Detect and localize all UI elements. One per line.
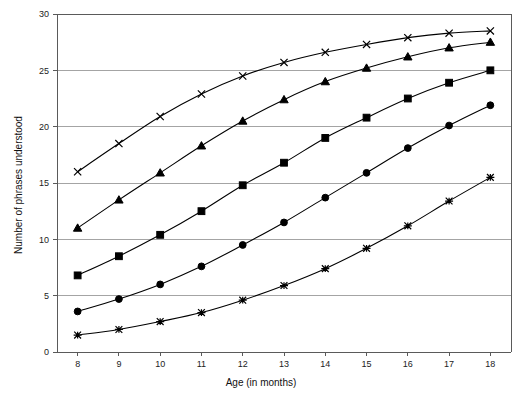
y-tick-label-5: 5 <box>44 291 49 301</box>
data-point-s3-x17 <box>446 79 453 86</box>
data-point-s4-x9 <box>116 296 123 303</box>
data-point-s3-x12 <box>239 182 246 189</box>
y-tick-label-25: 25 <box>39 66 49 76</box>
x-tick-label-17: 17 <box>444 359 454 369</box>
data-point-s5-x14 <box>321 265 329 272</box>
data-point-s3-x8 <box>74 272 81 279</box>
x-tick-label-13: 13 <box>279 359 289 369</box>
y-tick-label-10: 10 <box>39 235 49 245</box>
data-point-s5-x15 <box>363 245 371 252</box>
x-tick-label-14: 14 <box>320 359 330 369</box>
data-point-s3-x14 <box>322 135 329 142</box>
data-point-s3-x9 <box>116 253 123 260</box>
data-point-s3-x15 <box>363 114 370 121</box>
chart-canvas: 89101112131415161718 051015202530 Age (i… <box>0 0 523 399</box>
data-point-s4-x15 <box>363 169 370 176</box>
x-tick-label-15: 15 <box>362 359 372 369</box>
x-tick-label-12: 12 <box>238 359 248 369</box>
x-tick-label-8: 8 <box>75 359 80 369</box>
data-point-s3-x13 <box>281 159 288 166</box>
data-point-s4-x18 <box>487 102 494 109</box>
x-tick-label-18: 18 <box>485 359 495 369</box>
chart-background <box>0 0 523 399</box>
data-point-s5-x18 <box>486 174 494 181</box>
data-point-s4-x12 <box>239 242 246 249</box>
data-point-s5-x11 <box>197 309 205 316</box>
line-chart: 89101112131415161718 051015202530 Age (i… <box>0 0 523 399</box>
data-point-s4-x8 <box>74 308 81 315</box>
data-point-s5-x16 <box>404 222 412 229</box>
data-point-s3-x16 <box>404 95 411 102</box>
data-point-s5-x8 <box>74 332 82 339</box>
data-point-s5-x17 <box>445 198 453 205</box>
data-point-s5-x12 <box>239 297 247 304</box>
data-point-s5-x13 <box>280 282 288 289</box>
data-point-s4-x14 <box>322 194 329 201</box>
data-point-s3-x11 <box>198 208 205 215</box>
x-tick-label-9: 9 <box>116 359 121 369</box>
y-tick-label-0: 0 <box>44 347 49 357</box>
data-point-s4-x10 <box>157 281 164 288</box>
data-point-s4-x16 <box>404 145 411 152</box>
y-tick-label-30: 30 <box>39 9 49 19</box>
data-point-s4-x13 <box>281 219 288 226</box>
x-tick-label-10: 10 <box>155 359 165 369</box>
data-point-s4-x17 <box>446 122 453 129</box>
x-tick-label-11: 11 <box>197 359 206 369</box>
x-axis-title: Age (in months) <box>226 377 297 388</box>
data-point-s5-x9 <box>115 326 123 333</box>
data-point-s4-x11 <box>198 263 205 270</box>
y-tick-label-20: 20 <box>39 122 49 132</box>
x-tick-label-16: 16 <box>403 359 413 369</box>
data-point-s5-x10 <box>156 318 164 325</box>
data-point-s3-x10 <box>157 231 164 238</box>
data-point-s3-x18 <box>487 67 494 74</box>
y-tick-label-15: 15 <box>39 178 49 188</box>
y-axis-title: Number of phrases understood <box>13 116 24 254</box>
